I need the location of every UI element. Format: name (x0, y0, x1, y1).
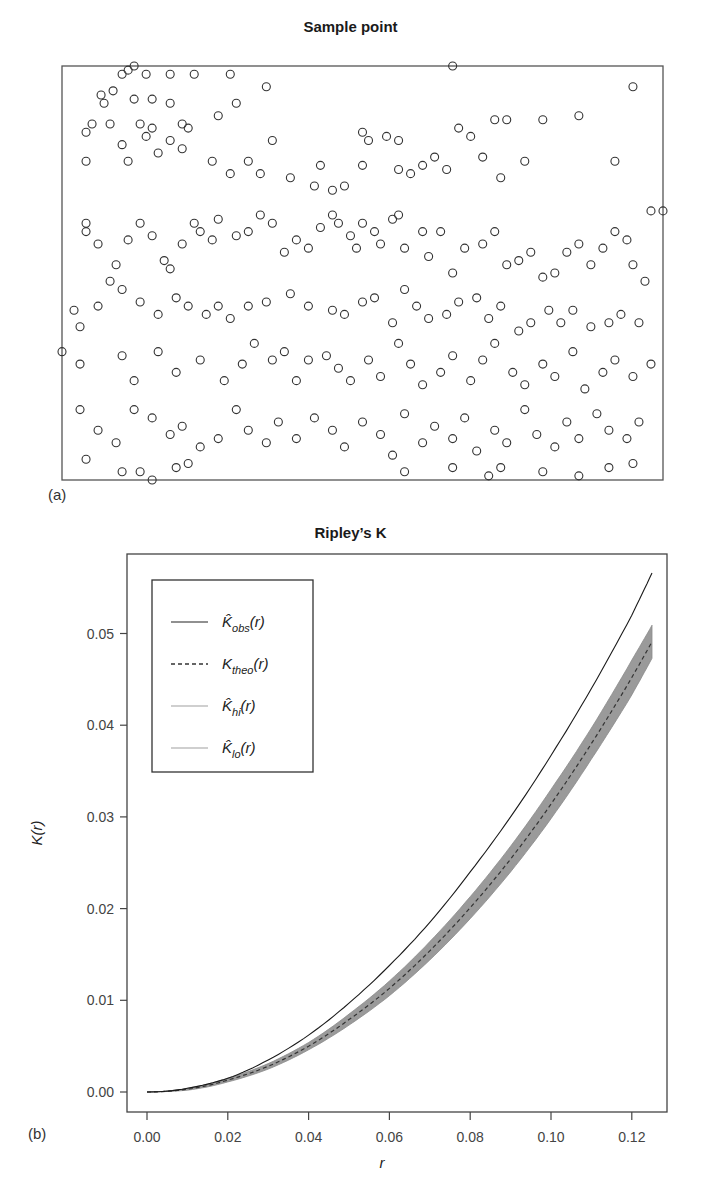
scatter-point (641, 277, 649, 285)
scatter-point (112, 261, 120, 269)
scatter-point (262, 83, 270, 91)
scatter-point (346, 232, 354, 240)
scatter-point (268, 137, 276, 145)
scatter-point (340, 443, 348, 451)
scatter-point (220, 377, 228, 385)
scatter-point (497, 302, 505, 310)
scatter-point (569, 348, 577, 356)
scatter-point (419, 439, 427, 447)
scatter-point (334, 219, 342, 227)
scatter-point (286, 290, 294, 298)
scatter-point (437, 368, 445, 376)
legend: K̂obs(r)Ktheo(r)K̂hi(r)K̂lo(r) (152, 580, 313, 772)
scatter-point (94, 302, 102, 310)
scatter-point (262, 298, 270, 306)
scatter-point (226, 170, 234, 178)
scatter-point (76, 323, 84, 331)
scatter-point (479, 240, 487, 248)
scatter-point (623, 236, 631, 244)
scatter-point (491, 339, 499, 347)
scatter-point (533, 430, 541, 438)
ripley-title: Ripley’s K (0, 524, 701, 541)
scatter-point (563, 418, 571, 426)
legend-label-obs: K̂obs(r) (222, 613, 265, 634)
scatter-point (575, 240, 583, 248)
scatter-point (94, 426, 102, 434)
scatter-point (635, 319, 643, 327)
scatter-point (407, 360, 415, 368)
scatter-point (232, 232, 240, 240)
scatter-point (154, 149, 162, 157)
x-tick-label: 0.04 (295, 1129, 322, 1145)
scatter-point (401, 244, 409, 252)
scatter-point (268, 219, 276, 227)
scatter-point (292, 435, 300, 443)
scatter-point (401, 410, 409, 418)
scatter-point (599, 244, 607, 252)
scatter-point (377, 430, 385, 438)
scatter-point (148, 232, 156, 240)
scatter-point (377, 240, 385, 248)
scatter-point (359, 219, 367, 227)
scatter-point (521, 381, 529, 389)
scatter-point (425, 252, 433, 260)
scatter-point (527, 248, 535, 256)
scatter-point (605, 464, 613, 472)
scatter-point (190, 70, 198, 78)
scatter-point (635, 418, 643, 426)
scatter-point (551, 269, 559, 277)
scatter-point (148, 95, 156, 103)
panel-label-b: (b) (28, 1125, 46, 1142)
scatter-point (611, 356, 619, 364)
scatter-point (166, 70, 174, 78)
scatter-point (112, 439, 120, 447)
scatter-point (82, 128, 90, 136)
scatter-point (268, 356, 276, 364)
scatter-point (118, 70, 126, 78)
scatter-point (455, 298, 463, 306)
scatter-point (118, 352, 126, 360)
scatter-points (58, 62, 667, 484)
scatter-point (202, 310, 210, 318)
scatter-point (503, 116, 511, 124)
scatter-point (473, 447, 481, 455)
scatter-point (401, 286, 409, 294)
y-tick-label: 0.01 (87, 992, 114, 1008)
scatter-point (178, 145, 186, 153)
scatter-point (190, 219, 198, 227)
scatter-point (383, 132, 391, 140)
scatter-point (124, 157, 132, 165)
scatter-point (130, 377, 138, 385)
scatter-point (503, 261, 511, 269)
scatter-point (232, 99, 240, 107)
scatter-point (124, 236, 132, 244)
scatter-point (256, 170, 264, 178)
scatter-point (136, 468, 144, 476)
scatter-point (166, 99, 174, 107)
scatter-point (328, 426, 336, 434)
scatter-point (443, 166, 451, 174)
scatter-point (629, 261, 637, 269)
y-tick-label: 0.05 (87, 626, 114, 642)
plot-frame (127, 554, 667, 1112)
scatter-point (178, 422, 186, 430)
scatter-point (304, 302, 312, 310)
scatter-point (515, 257, 523, 265)
scatter-point (449, 464, 457, 472)
scatter-point (365, 356, 373, 364)
scatter-point (539, 468, 547, 476)
scatter-point (328, 306, 336, 314)
scatter-point (497, 174, 505, 182)
scatter-point (539, 116, 547, 124)
scatter-point (322, 352, 330, 360)
scatter-point (395, 211, 403, 219)
scatter-point (136, 219, 144, 227)
scatter-point (509, 368, 517, 376)
k-obs-line (147, 573, 652, 1092)
scatter-point (130, 406, 138, 414)
scatter-point (605, 426, 613, 434)
scatter-point (166, 265, 174, 273)
x-axis: 0.000.020.040.060.080.100.12 (133, 1112, 645, 1145)
scatter-plot (0, 0, 701, 500)
scatter-point (82, 455, 90, 463)
